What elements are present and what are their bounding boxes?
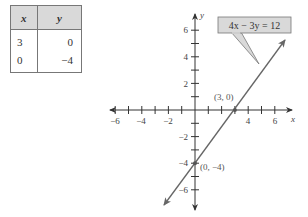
equation-label: 4x − 3y = 12 — [229, 20, 280, 31]
x-axis-label: x — [290, 114, 295, 124]
x-tick-label: −2 — [163, 116, 173, 126]
point-marker — [233, 108, 237, 112]
point-marker — [193, 161, 197, 165]
x-tick-label: 4 — [246, 116, 251, 126]
y-tick-label: 4 — [184, 52, 189, 62]
x-tick-label: 6 — [273, 116, 278, 126]
point-label: (0, −4) — [200, 162, 225, 172]
y-tick-label: −6 — [178, 185, 188, 195]
equation-line — [164, 40, 285, 205]
y-tick-label: 2 — [184, 79, 189, 89]
y-axis-label: y — [199, 10, 204, 20]
x-axis: −6 −4 −2 4 6 x — [110, 106, 295, 126]
x-tick-label: −6 — [110, 116, 120, 126]
y-tick-label: 6 — [184, 25, 189, 35]
y-tick-label: −2 — [178, 132, 188, 142]
x-tick-label: −4 — [136, 116, 146, 126]
coordinate-graph: −6 −4 −2 4 6 x 6 4 2 −2 — [0, 0, 308, 217]
y-tick-label: −4 — [178, 158, 188, 168]
equation-callout: 4x − 3y = 12 — [218, 17, 291, 64]
point-label: (3, 0) — [214, 92, 234, 102]
